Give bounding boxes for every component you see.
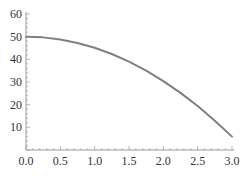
x-tick-label: 0.5 [53, 154, 68, 168]
y-tick-label: 60 [10, 7, 22, 21]
x-tick-label: 3.0 [225, 154, 240, 168]
y-tick-label: 30 [10, 75, 22, 89]
y-tick-label: 40 [10, 52, 22, 66]
x-tick-label: 0.0 [19, 154, 34, 168]
x-tick-label: 2.5 [190, 154, 205, 168]
line-chart: 102030405060 0.00.51.01.52.02.53.0 [0, 0, 247, 176]
x-tick-label: 1.0 [87, 154, 102, 168]
x-tick-label: 1.5 [122, 154, 137, 168]
y-tick-label: 20 [10, 98, 22, 112]
y-axis: 102030405060 [10, 7, 30, 150]
series-line [26, 37, 232, 137]
y-tick-label: 50 [10, 30, 22, 44]
y-tick-label: 10 [10, 120, 22, 134]
x-axis: 0.00.51.01.52.02.53.0 [19, 146, 240, 168]
plot-area [26, 37, 232, 137]
x-tick-label: 2.0 [156, 154, 171, 168]
